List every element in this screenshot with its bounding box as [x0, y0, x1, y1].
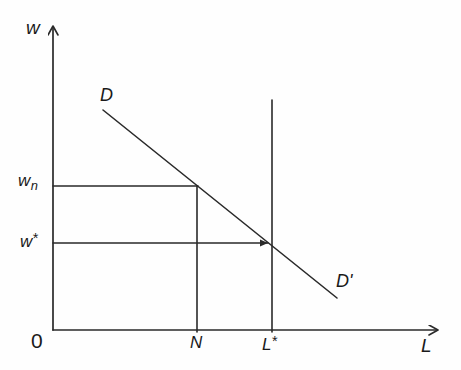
demand-curve-start-label: D — [100, 86, 113, 104]
x-tick-lstar-star: * — [271, 333, 277, 349]
x-tick-label-lstar: L* — [262, 334, 278, 353]
y-axis-label: w — [26, 18, 40, 37]
y-tick-wstar-star: * — [32, 230, 38, 246]
y-tick-wn-subscript: n — [30, 178, 38, 193]
x-tick-label-n: N — [190, 334, 202, 351]
y-tick-wn-base: w — [18, 171, 30, 190]
diagram-canvas — [0, 0, 461, 370]
demand-curve-end-label: D' — [336, 272, 352, 290]
demand-curve — [103, 110, 337, 298]
y-tick-wstar-base: w — [20, 232, 32, 251]
origin-label: 0 — [31, 330, 43, 351]
x-axis-label: L — [421, 336, 432, 355]
y-tick-label-wstar: w* — [20, 231, 38, 250]
y-tick-label-wn: wn — [18, 172, 38, 193]
economics-diagram: w L 0 wn w* N L* D D' — [0, 0, 461, 370]
